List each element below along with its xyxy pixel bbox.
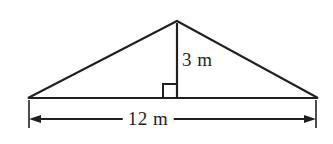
triangle-outline — [28, 21, 318, 98]
geometry-figure: 3 m 12 m — [0, 0, 333, 144]
height-dimension-label: 3 m — [182, 49, 213, 71]
arrowhead-right-icon — [304, 115, 316, 123]
triangle-path — [28, 21, 318, 98]
base-dimension-label: 12 m — [123, 108, 174, 130]
right-angle-marker-icon — [163, 84, 176, 98]
arrowhead-left-icon — [29, 115, 41, 123]
